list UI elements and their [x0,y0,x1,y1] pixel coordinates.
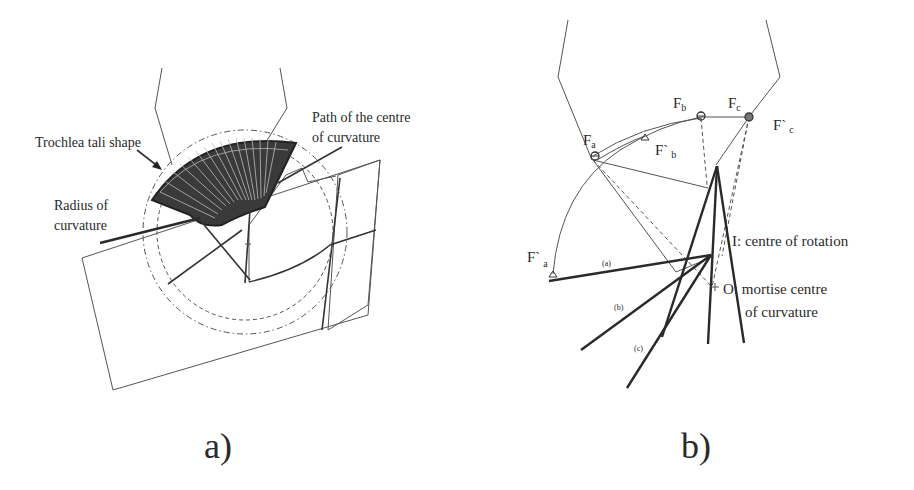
label-fpc: F`c [773,117,794,135]
figure-canvas: Trochlea tali shape Radius of curvature … [0,0,914,490]
panel-b: Fa Fb Fc F`c F`b F`a (a) (b) (c) I: cent… [527,20,849,466]
marker-fa-icon [591,152,599,160]
line-c [627,255,711,388]
label-line-b: (b) [614,303,624,312]
label-o-1: O: mortise centre [723,281,827,297]
label-fpa: F`a [527,249,548,269]
marker-fc-icon [745,113,753,121]
label-line-c: (c) [634,344,643,353]
radius-line-3 [200,220,250,280]
label-radius-2: curvature [54,218,107,233]
label-fa: Fa [583,132,596,150]
label-o-2: of curvature [745,304,818,320]
radius-line [100,218,200,243]
caption-b: b) [681,426,711,466]
label-fc: Fc [728,95,741,113]
line-b [581,255,711,350]
caption-a: a) [204,426,232,466]
tibia-right-edge [266,68,287,142]
talus-lower-edge [249,230,376,282]
trochlea-fan [152,138,296,226]
tibia-right-edge-b [748,20,780,118]
bone-segment-right [328,160,380,330]
label-radius-1: Radius of [54,198,108,213]
label-fpb: F`b [655,142,676,160]
centre-cross-a [245,241,251,247]
tibia-left-edge [155,68,172,165]
panel-a: Trochlea tali shape Radius of curvature … [35,68,410,466]
label-path-1: Path of the centre [312,110,410,125]
label-i: I: centre of rotation [732,233,849,249]
label-path-2: of curvature [312,130,380,145]
bone-edge [322,178,340,330]
label-line-a: (a) [602,259,611,268]
label-trochlea: Trochlea tali shape [35,135,141,150]
triangle-right [717,166,744,343]
dash-fb [701,118,707,185]
label-fb: Fb [673,95,686,113]
